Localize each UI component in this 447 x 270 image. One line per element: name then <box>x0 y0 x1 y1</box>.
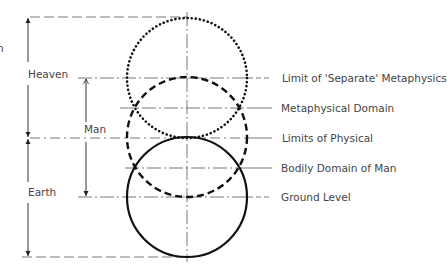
label-ground-level: Ground Level <box>281 191 351 203</box>
man-label: Man <box>84 123 106 135</box>
label-limit-separate-metaphysics: Limit of 'Separate' Metaphysics <box>282 72 447 84</box>
label-metaphysical-domain: Metaphysical Domain <box>281 102 394 114</box>
man-dimension: Man <box>84 79 106 196</box>
heaven-dimension: Heaven <box>28 18 68 137</box>
earth-dimension: Earth <box>28 139 56 256</box>
earth-label: Earth <box>28 186 56 198</box>
label-bodily-domain-of-man: Bodily Domain of Man <box>281 162 396 174</box>
left-edge-fragment: n <box>0 42 4 54</box>
heaven-man-earth-diagram: n Heaven Earth Man Limit of 'Separate' M… <box>0 0 447 270</box>
label-limits-of-physical: Limits of Physical <box>282 132 373 144</box>
heaven-label: Heaven <box>28 68 68 80</box>
